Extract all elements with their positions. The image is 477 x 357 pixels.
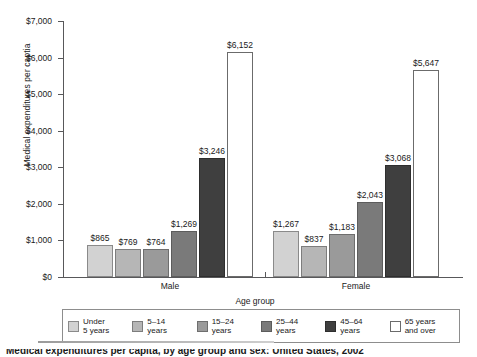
y-tick-label: $0: [8, 273, 52, 282]
bar: [87, 245, 113, 277]
bar: [227, 52, 253, 277]
legend-item[interactable]: 15–24 years: [197, 317, 261, 336]
bar-value-label: $6,152: [218, 41, 262, 50]
legend-item[interactable]: 25–44 years: [261, 317, 325, 336]
y-tick-label: $6,000: [8, 54, 52, 63]
bar-value-label: $1,267: [264, 220, 308, 229]
legend-label: 65 years and over: [405, 317, 436, 336]
y-tick-label: $7,000: [8, 17, 52, 26]
y-axis-title: Medical expenditures per captia: [22, 0, 32, 215]
bar: [171, 231, 197, 277]
legend-swatch-icon: [68, 321, 79, 332]
legend-swatch-icon: [261, 321, 272, 332]
plot-area: $865$769$764$1,269$3,246$6,152$1,267$837…: [63, 21, 463, 277]
bar: [357, 202, 383, 277]
bar-chart: Medical expenditures per captia $7,000$6…: [0, 0, 477, 357]
bar: [115, 249, 141, 277]
legend: Under 5 years5–14 years15–24 years25–44 …: [62, 309, 460, 343]
legend-item[interactable]: 45–64 years: [325, 317, 389, 336]
legend-label: 15–24 years: [212, 317, 234, 336]
x-axis-title: Age group: [205, 296, 305, 306]
legend-swatch-icon: [390, 321, 401, 332]
y-tick-label: $4,000: [8, 127, 52, 136]
caption-rule: [38, 341, 274, 343]
bar: [385, 165, 411, 277]
y-tick-mark: [58, 277, 63, 278]
y-tick-label: $2,000: [8, 200, 52, 209]
legend-label: 45–64 years: [340, 317, 362, 336]
legend-item[interactable]: Under 5 years: [68, 317, 132, 336]
bar: [413, 70, 439, 277]
bar: [143, 249, 169, 277]
bar: [199, 158, 225, 277]
group-label-male: Male: [130, 281, 210, 291]
x-axis-line: [63, 277, 463, 278]
y-tick-label: $5,000: [8, 90, 52, 99]
bar: [329, 234, 355, 277]
legend-label: 25–44 years: [276, 317, 298, 336]
legend-swatch-icon: [197, 321, 208, 332]
bar-value-label: $5,647: [404, 59, 448, 68]
group-label-female: Female: [316, 281, 396, 291]
group-separator-tick: [265, 272, 266, 278]
legend-item[interactable]: 65 years and over: [390, 317, 454, 336]
legend-item[interactable]: 5–14 years: [132, 317, 196, 336]
caption-strip: Medical expenditures per capita, by age …: [0, 349, 477, 357]
caption-text: Medical expenditures per capita, by age …: [6, 349, 364, 356]
legend-swatch-icon: [325, 321, 336, 332]
bar: [301, 246, 327, 277]
legend-swatch-icon: [132, 321, 143, 332]
legend-label: Under 5 years: [83, 317, 109, 336]
y-tick-label: $1,000: [8, 236, 52, 245]
legend-label: 5–14 years: [147, 317, 167, 336]
y-tick-label: $3,000: [8, 163, 52, 172]
